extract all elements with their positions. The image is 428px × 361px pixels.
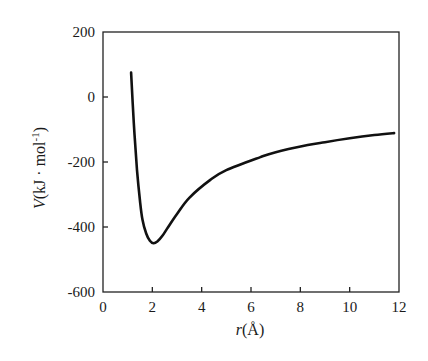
x-axis-ticks: 024681012 <box>99 287 406 315</box>
y-tick-label: 200 <box>73 24 96 40</box>
y-tick-label: -600 <box>68 284 96 300</box>
data-series-line <box>131 73 394 244</box>
y-tick-label: -200 <box>68 154 96 170</box>
x-tick-label: 4 <box>198 299 206 315</box>
y-axis-ticks: 2000-200-400-600 <box>68 24 109 300</box>
y-tick-label: -400 <box>68 219 96 235</box>
x-tick-label: 2 <box>149 299 157 315</box>
plot-frame <box>103 32 399 292</box>
y-tick-label: 0 <box>88 89 96 105</box>
x-tick-label: 10 <box>342 299 357 315</box>
x-tick-label: 12 <box>392 299 407 315</box>
x-tick-label: 6 <box>247 299 255 315</box>
x-tick-label: 8 <box>297 299 305 315</box>
plot-border <box>103 32 399 292</box>
x-axis-label: r(Å) <box>236 321 264 339</box>
x-tick-label: 0 <box>99 299 107 315</box>
potential-energy-chart: 024681012 2000-200-400-600 r(Å) V(kJ · m… <box>0 0 428 361</box>
y-axis-label: V(kJ · mol-1) <box>29 127 49 209</box>
